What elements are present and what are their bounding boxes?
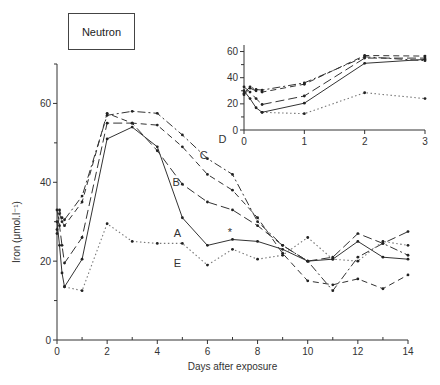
- data-point: [424, 55, 427, 58]
- series-label-A: A: [174, 227, 182, 239]
- data-point: [58, 244, 61, 247]
- data-point: [255, 88, 258, 91]
- data-point: [382, 240, 385, 243]
- x-tick-label: 8: [255, 346, 261, 357]
- data-point: [131, 126, 134, 129]
- data-point: [63, 218, 66, 221]
- data-point: [61, 220, 64, 223]
- series-line-E: [262, 93, 425, 114]
- data-point: [106, 122, 109, 125]
- data-point: [256, 220, 259, 223]
- data-point: [356, 232, 359, 235]
- data-point: [281, 248, 284, 251]
- data-point: [231, 189, 234, 192]
- y-tick-label: 40: [40, 177, 52, 188]
- x-tick-label: 3: [422, 136, 428, 147]
- series-line-D: [244, 57, 425, 94]
- data-point: [206, 173, 209, 176]
- data-point: [56, 208, 59, 211]
- data-point: [363, 62, 366, 65]
- data-point: [331, 258, 334, 261]
- data-point: [58, 224, 61, 227]
- data-point: [356, 240, 359, 243]
- data-point: [56, 228, 59, 231]
- data-point: [424, 97, 427, 100]
- data-point: [131, 240, 134, 243]
- data-point: [249, 91, 252, 94]
- y-axis-title: Iron (μmol.l⁻¹): [11, 201, 22, 263]
- data-point: [331, 283, 334, 286]
- data-point: [303, 112, 306, 115]
- data-point: [81, 258, 84, 261]
- x-tick-label: 0: [54, 346, 60, 357]
- series-label-B: B: [172, 176, 179, 188]
- data-point: [356, 260, 359, 263]
- data-point: [58, 208, 61, 211]
- data-point: [81, 289, 84, 292]
- data-point: [63, 285, 66, 288]
- x-tick-label: 2: [104, 346, 110, 357]
- data-point: [303, 95, 306, 98]
- data-point: [61, 272, 64, 275]
- data-point: [156, 112, 159, 115]
- data-point: [156, 149, 159, 152]
- y-tick-label: 0: [45, 335, 51, 346]
- y-tick-label: 60: [40, 98, 52, 109]
- data-point: [306, 279, 309, 282]
- x-tick-label: 1: [302, 136, 308, 147]
- data-point: [181, 183, 184, 186]
- data-point: [303, 82, 306, 85]
- data-point: [363, 91, 366, 94]
- x-tick-label: 10: [302, 346, 314, 357]
- x-tick-label: 0: [241, 136, 247, 147]
- data-point: [63, 262, 66, 265]
- data-point: [356, 256, 359, 259]
- data-point: [331, 289, 334, 292]
- data-point: [424, 59, 427, 62]
- data-point: [255, 97, 258, 100]
- data-point: [306, 260, 309, 263]
- data-point: [206, 264, 209, 267]
- data-point: [256, 258, 259, 261]
- series-line-B: [57, 123, 408, 263]
- series-line-C: [57, 113, 408, 288]
- data-point: [106, 114, 109, 117]
- data-point: [407, 258, 410, 261]
- data-point: [156, 124, 159, 127]
- data-point: [407, 254, 410, 257]
- data-point: [81, 195, 84, 198]
- data-point: [181, 134, 184, 137]
- data-point: [231, 208, 234, 211]
- main-chart: 020406002468101214Days after exposureIro…: [0, 0, 440, 385]
- data-point: [303, 102, 306, 105]
- data-point: [61, 244, 64, 247]
- series-label-C: C: [200, 149, 208, 161]
- data-point: [61, 216, 64, 219]
- series-label-E: E: [174, 257, 181, 269]
- data-point: [63, 224, 66, 227]
- main-plot: 020406002468101214Days after exposureIro…: [11, 64, 414, 372]
- series-line-A: [244, 59, 425, 112]
- data-point: [256, 224, 259, 227]
- x-tick-label: 12: [352, 346, 364, 357]
- annotation-asterisk: *: [228, 226, 233, 238]
- data-point: [106, 138, 109, 141]
- inset-plot: 02040600123: [227, 45, 428, 147]
- y-tick-label: 40: [227, 72, 239, 83]
- series-line-B: [244, 58, 425, 104]
- data-point: [231, 173, 234, 176]
- x-tick-label: 14: [402, 346, 414, 357]
- x-tick-label: 4: [155, 346, 161, 357]
- x-tick-label: 6: [205, 346, 211, 357]
- data-point: [261, 103, 264, 106]
- data-point: [382, 256, 385, 259]
- data-point: [363, 55, 366, 58]
- data-point: [281, 244, 284, 247]
- data-point: [181, 242, 184, 245]
- data-point: [261, 111, 264, 114]
- data-point: [407, 274, 410, 277]
- data-point: [261, 89, 264, 92]
- data-point: [255, 106, 258, 109]
- data-point: [156, 242, 159, 245]
- x-tick-label: 2: [362, 136, 368, 147]
